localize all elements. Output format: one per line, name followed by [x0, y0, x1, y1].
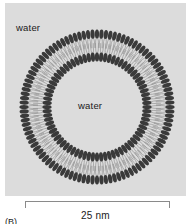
panel-caption: (B) — [5, 218, 17, 224]
scale-bar-line — [25, 201, 170, 202]
liposome-figure: water water 25 nm (B) — [0, 0, 191, 224]
label-water-inner: water — [78, 100, 102, 111]
label-water-outer: water — [16, 22, 40, 33]
scale-bar-tick-left — [25, 201, 26, 208]
scale-bar — [25, 201, 170, 209]
scale-bar-label: 25 nm — [0, 210, 191, 221]
scale-bar-tick-right — [169, 201, 170, 208]
